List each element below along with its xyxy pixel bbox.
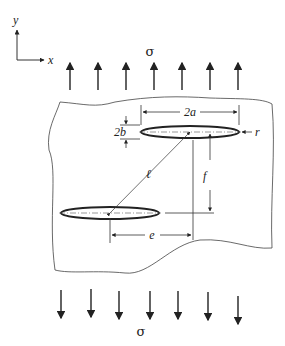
tension-arrows-bottom <box>61 289 238 324</box>
coordinate-axes: y x <box>12 13 54 67</box>
stress-top-label: σ <box>146 44 155 59</box>
two-crack-diagram: y x σ 2a 2b r ℓ <box>0 0 285 346</box>
label-l: ℓ <box>146 167 151 181</box>
label-2a: 2a <box>184 105 196 119</box>
tension-arrows-top <box>70 63 238 90</box>
plate-outline <box>48 97 273 273</box>
y-axis-label: y <box>12 13 19 27</box>
label-e: e <box>149 228 155 242</box>
label-2b: 2b <box>114 125 126 139</box>
label-f: f <box>203 169 208 183</box>
label-r: r <box>255 125 260 139</box>
stress-bottom-label: σ <box>137 324 146 339</box>
x-axis-label: x <box>47 53 54 67</box>
